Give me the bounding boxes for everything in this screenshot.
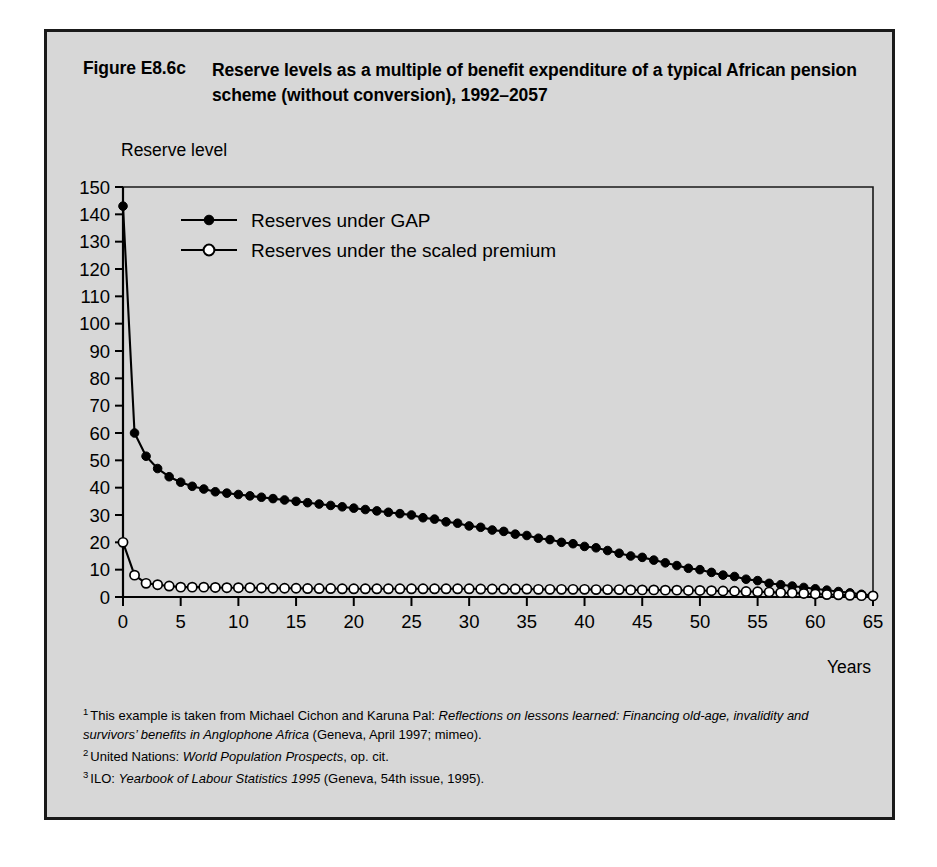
footnote-text: (Geneva, 54th issue, 1995). [320, 772, 484, 787]
data-point [165, 581, 174, 590]
data-point [349, 584, 358, 593]
data-point [741, 587, 750, 596]
data-point [165, 472, 174, 481]
data-point [580, 585, 589, 594]
data-point [430, 515, 439, 524]
data-point [199, 485, 208, 494]
data-point [199, 583, 208, 592]
x-tick-label: 10 [228, 611, 249, 632]
data-point [776, 588, 785, 597]
data-point [488, 526, 497, 535]
y-tick-labels: 0102030405060708090100110120130140150 [79, 177, 110, 608]
data-point [315, 584, 324, 593]
data-point [822, 590, 831, 599]
data-point [557, 585, 566, 594]
data-point [476, 523, 485, 532]
data-point [626, 585, 635, 594]
data-point [591, 585, 600, 594]
data-point [442, 518, 451, 527]
footnote-text: (Geneva, April 1997; mimeo). [309, 727, 482, 742]
data-point [349, 504, 358, 513]
data-point [153, 464, 162, 473]
footnote-1: 1This example is taken from Michael Cich… [83, 705, 866, 744]
x-tick-label: 65 [863, 611, 884, 632]
data-point [303, 498, 312, 507]
data-point [257, 583, 266, 592]
x-tick-label: 5 [176, 611, 186, 632]
data-point [453, 519, 462, 528]
data-point [799, 589, 808, 598]
data-point [523, 531, 532, 540]
data-point [557, 538, 566, 547]
y-tick-label: 60 [89, 423, 110, 444]
data-point [234, 490, 243, 499]
data-point [499, 584, 508, 593]
data-point [384, 584, 393, 593]
data-point [834, 590, 843, 599]
data-point [291, 584, 300, 593]
y-tick-label: 70 [89, 395, 110, 416]
data-point [257, 493, 266, 502]
data-point [661, 586, 670, 595]
data-point [684, 586, 693, 595]
data-point [441, 584, 450, 593]
data-point [280, 584, 289, 593]
y-tick-label: 100 [79, 313, 110, 334]
data-point [638, 553, 647, 562]
data-point [176, 478, 185, 487]
footnote-text: Yearbook of Labour Statistics 1995 [118, 772, 320, 787]
y-tick-label: 80 [89, 368, 110, 389]
data-point [511, 584, 520, 593]
data-point [753, 576, 762, 585]
footnote-3: 3ILO: Yearbook of Labour Statistics 1995… [83, 768, 866, 789]
data-point [845, 591, 854, 600]
data-point [499, 527, 508, 536]
y-tick-label: 110 [81, 286, 111, 307]
footnotes-block: 1This example is taken from Michael Cich… [83, 705, 866, 791]
data-point [141, 579, 150, 588]
data-point [568, 585, 577, 594]
x-tick-label: 20 [343, 611, 364, 632]
y-tick-label: 40 [89, 477, 110, 498]
data-point [811, 589, 820, 598]
data-point [695, 586, 704, 595]
footnote-text: ILO: [90, 772, 118, 787]
data-point [545, 585, 554, 594]
data-point [603, 546, 612, 555]
data-point [684, 564, 693, 573]
data-point [765, 587, 774, 596]
data-point [395, 584, 404, 593]
footnote-marker: 1 [83, 706, 88, 717]
data-point [292, 497, 301, 506]
series-line [123, 206, 873, 596]
x-tick-label: 55 [747, 611, 768, 632]
data-point [303, 584, 312, 593]
data-point [453, 584, 462, 593]
y-tick-label: 130 [79, 231, 110, 252]
data-point [476, 584, 485, 593]
data-point [269, 494, 278, 503]
footnote-text: , op. cit. [343, 749, 389, 764]
x-tick-label: 50 [690, 611, 711, 632]
data-point [465, 584, 474, 593]
legend-label: Reserves under GAP [251, 210, 431, 231]
y-tick-label: 30 [89, 505, 110, 526]
data-point [742, 575, 751, 584]
data-point [857, 591, 866, 600]
legend-label: Reserves under the scaled premium [251, 240, 556, 261]
chart-legend: Reserves under GAPReserves under the sca… [181, 210, 556, 261]
data-point [211, 487, 220, 496]
data-point [615, 585, 624, 594]
series-scaled-premium [118, 538, 877, 601]
data-point [696, 565, 705, 574]
data-point [142, 452, 151, 461]
legend-marker-open-circle-icon [204, 245, 215, 256]
footnote-2: 2United Nations: World Population Prospe… [83, 746, 866, 767]
data-point [118, 538, 127, 547]
data-point [592, 544, 601, 553]
data-point [522, 584, 531, 593]
data-point [130, 429, 139, 438]
x-axis-title-text: Years [827, 657, 871, 677]
data-point [280, 496, 289, 505]
data-point [418, 584, 427, 593]
